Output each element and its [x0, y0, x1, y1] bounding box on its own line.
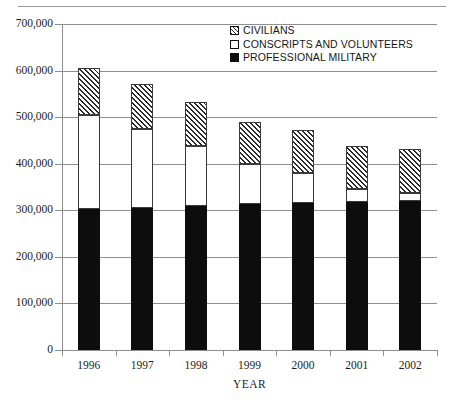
bar-segment-conscripts-and-volunteers-1997 — [131, 129, 153, 208]
black-swatch-icon — [230, 53, 239, 62]
bar-1998[interactable] — [185, 24, 207, 350]
bar-1997[interactable] — [131, 24, 153, 350]
y-tick-label-600000: 600,000 — [0, 65, 53, 77]
bar-segment-civilians-2000 — [292, 130, 314, 173]
x-tick-mark-end — [437, 350, 438, 356]
x-axis-title: YEAR — [62, 378, 437, 390]
y-tick-label-200000: 200,000 — [0, 251, 53, 263]
bar-2000[interactable] — [292, 24, 314, 350]
legend-item-conscripts-and-volunteers[interactable]: CONSCRIPTS AND VOLUNTEERS — [230, 38, 413, 52]
x-axis-line — [62, 350, 437, 351]
bar-segment-professional-military-2001 — [346, 202, 368, 350]
bar-segment-professional-military-1996 — [78, 209, 100, 350]
plot-area — [62, 24, 437, 350]
bar-segment-professional-military-1997 — [131, 208, 153, 350]
bar-segment-conscripts-and-volunteers-1998 — [185, 146, 207, 206]
bar-segment-conscripts-and-volunteers-1996 — [78, 115, 100, 209]
bar-segment-conscripts-and-volunteers-2000 — [292, 173, 314, 203]
bar-2002[interactable] — [399, 24, 421, 350]
y-tick-label-700000: 700,000 — [0, 18, 53, 30]
x-tick-mark-1996 — [62, 350, 63, 356]
bar-segment-civilians-1999 — [239, 122, 261, 163]
legend-item-civilians[interactable]: CIVILIANS — [230, 24, 413, 38]
white-swatch-icon — [230, 40, 239, 49]
bar-segment-civilians-1997 — [131, 84, 153, 129]
bar-segment-professional-military-1999 — [239, 204, 261, 350]
top-horizontal-rule — [18, 6, 446, 7]
hatched-swatch-icon — [230, 26, 239, 35]
bar-segment-civilians-1996 — [78, 68, 100, 115]
x-tick-label-2002: 2002 — [384, 359, 436, 371]
bar-1996[interactable] — [78, 24, 100, 350]
x-tick-mark-1999 — [223, 350, 224, 356]
bar-segment-professional-military-2000 — [292, 203, 314, 350]
y-tick-label-100000: 100,000 — [0, 297, 53, 309]
bar-segment-professional-military-2002 — [399, 201, 421, 350]
y-tick-label-300000: 300,000 — [0, 204, 53, 216]
x-tick-label-1996: 1996 — [63, 359, 115, 371]
bar-2001[interactable] — [346, 24, 368, 350]
bar-segment-conscripts-and-volunteers-1999 — [239, 164, 261, 205]
x-tick-mark-2002 — [383, 350, 384, 356]
legend-item-professional-military[interactable]: PROFESSIONAL MILITARY — [230, 51, 413, 65]
x-tick-mark-2000 — [276, 350, 277, 356]
y-tick-label-0: 0 — [0, 344, 53, 356]
legend-label-professional-military: PROFESSIONAL MILITARY — [243, 51, 377, 65]
bar-segment-civilians-2002 — [399, 149, 421, 193]
bar-segment-civilians-1998 — [185, 102, 207, 146]
legend-label-civilians: CIVILIANS — [243, 24, 295, 38]
legend-label-conscripts-and-volunteers: CONSCRIPTS AND VOLUNTEERS — [243, 38, 413, 52]
x-tick-mark-1997 — [116, 350, 117, 356]
bar-1999[interactable] — [239, 24, 261, 350]
x-tick-label-1998: 1998 — [170, 359, 222, 371]
x-tick-label-1999: 1999 — [224, 359, 276, 371]
stacked-bar-chart-figure: 0100,000200,000300,000400,000500,000600,… — [0, 0, 456, 403]
x-tick-mark-2001 — [330, 350, 331, 356]
chart-legend: CIVILIANS CONSCRIPTS AND VOLUNTEERS PROF… — [230, 24, 413, 65]
x-tick-label-2000: 2000 — [277, 359, 329, 371]
bar-segment-conscripts-and-volunteers-2002 — [399, 193, 421, 201]
bar-segment-conscripts-and-volunteers-2001 — [346, 189, 368, 202]
y-tick-label-400000: 400,000 — [0, 158, 53, 170]
bar-segment-professional-military-1998 — [185, 206, 207, 350]
x-tick-label-1997: 1997 — [116, 359, 168, 371]
x-tick-label-2001: 2001 — [331, 359, 383, 371]
bar-segment-civilians-2001 — [346, 146, 368, 189]
x-tick-mark-1998 — [169, 350, 170, 356]
y-tick-label-500000: 500,000 — [0, 111, 53, 123]
